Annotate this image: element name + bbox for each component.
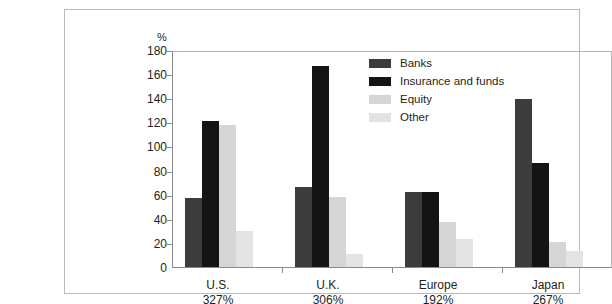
category-name: Japan xyxy=(488,278,608,293)
x-axis-separator xyxy=(502,267,503,273)
bar-group-us xyxy=(185,52,253,267)
bar-banks xyxy=(405,192,422,267)
legend-item-insuranceandfunds: Insurance and funds xyxy=(369,72,504,90)
y-axis-tick-label: 0 xyxy=(131,262,167,274)
bar-insuranceandfunds xyxy=(312,66,329,267)
bar-equity xyxy=(329,197,346,267)
y-axis-tick-label: 140 xyxy=(131,93,167,105)
legend-label: Insurance and funds xyxy=(400,76,504,87)
category-name: Europe xyxy=(378,278,498,293)
legend-label: Other xyxy=(400,112,429,123)
chart-legend: BanksInsurance and fundsEquityOther xyxy=(369,54,504,126)
y-axis-unit-label: % xyxy=(157,31,167,43)
bar-group-uk xyxy=(295,52,363,267)
legend-swatch xyxy=(369,95,391,104)
bar-banks xyxy=(515,99,532,267)
bar-banks xyxy=(185,198,202,267)
category-name: U.S. xyxy=(158,278,278,293)
bar-other xyxy=(346,254,363,267)
category-name: U.K. xyxy=(268,278,388,293)
category-percent: 327% xyxy=(158,293,278,304)
y-axis-tick-label: 60 xyxy=(131,190,167,202)
y-axis-tick-label: 180 xyxy=(131,45,167,57)
bar-banks xyxy=(295,187,312,267)
y-axis-tick-label: 100 xyxy=(131,141,167,153)
category-percent: 192% xyxy=(378,293,498,304)
legend-item-other: Other xyxy=(369,108,504,126)
x-axis-label-uk: U.K.306% xyxy=(268,278,388,304)
x-axis-label-japan: Japan267% xyxy=(488,278,608,304)
y-axis-tick-label: 80 xyxy=(131,166,167,178)
bar-equity xyxy=(219,125,236,267)
legend-label: Banks xyxy=(400,58,432,69)
category-percent: 267% xyxy=(488,293,608,304)
legend-label: Equity xyxy=(400,94,432,105)
bar-other xyxy=(566,251,583,267)
y-axis-tick-label: 40 xyxy=(131,214,167,226)
x-axis-label-us: U.S.327% xyxy=(158,278,278,304)
chart-panel: % 020406080100120140160180 U.S.327%U.K.3… xyxy=(64,9,580,294)
legend-swatch xyxy=(369,113,391,122)
bar-other xyxy=(456,239,473,267)
x-axis-separator xyxy=(392,267,393,273)
y-axis-tick-label: 20 xyxy=(131,238,167,250)
legend-item-banks: Banks xyxy=(369,54,504,72)
y-axis-tick-label: 160 xyxy=(131,69,167,81)
legend-swatch xyxy=(369,77,391,86)
category-percent: 306% xyxy=(268,293,388,304)
legend-swatch xyxy=(369,59,391,68)
y-axis-tick-label: 120 xyxy=(131,117,167,129)
bar-other xyxy=(236,231,253,267)
legend-item-equity: Equity xyxy=(369,90,504,108)
x-axis-separator xyxy=(282,267,283,273)
bar-group-japan xyxy=(515,52,583,267)
bar-insuranceandfunds xyxy=(422,192,439,267)
bar-equity xyxy=(549,242,566,267)
bar-insuranceandfunds xyxy=(202,121,219,267)
x-axis-label-europe: Europe192% xyxy=(378,278,498,304)
bar-insuranceandfunds xyxy=(532,163,549,267)
bar-equity xyxy=(439,222,456,267)
